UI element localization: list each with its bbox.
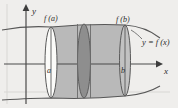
label-f-a: f (a) — [44, 14, 58, 23]
axis-label-y: y — [31, 6, 36, 16]
left-end-disk — [45, 27, 57, 98]
figure-svg: y x f (a) f (b) a b y = f (x) — [0, 0, 178, 108]
label-f-b: f (b) — [116, 15, 130, 24]
label-curve-equation: y = f (x) — [141, 37, 170, 47]
label-a: a — [47, 66, 51, 75]
right-end-disk — [120, 25, 131, 96]
solid-of-revolution-figure: y x f (a) f (b) a b y = f (x) — [0, 0, 178, 108]
label-b: b — [121, 66, 125, 75]
axis-label-x: x — [163, 66, 168, 76]
representative-disk — [78, 24, 91, 98]
